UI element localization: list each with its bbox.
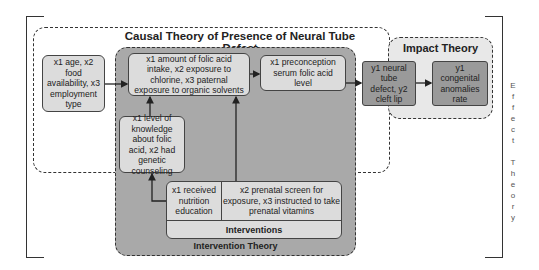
arrow-education-to-knowledge [152,174,166,201]
edge-arrows [0,0,539,270]
